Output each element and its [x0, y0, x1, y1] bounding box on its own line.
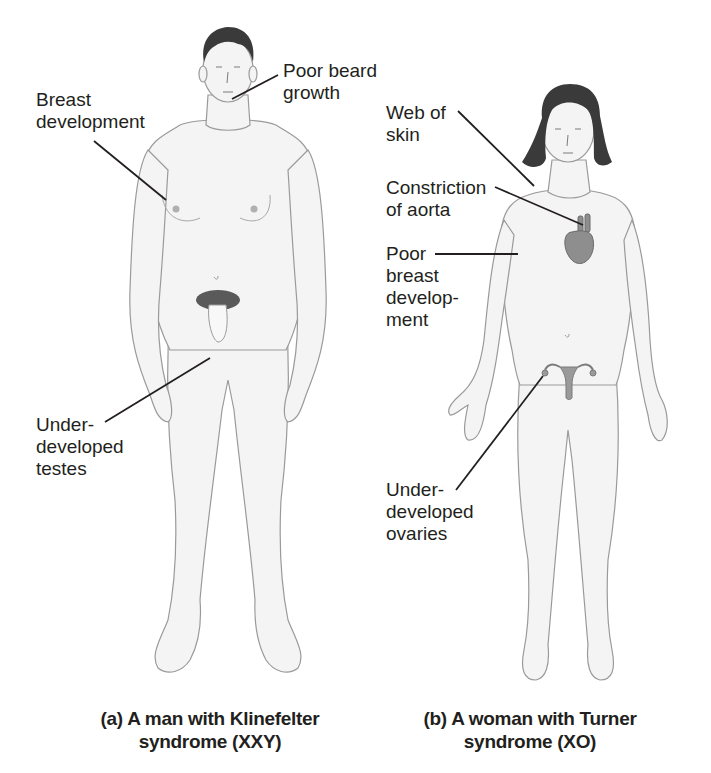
man-figure [130, 38, 326, 672]
man-nipple-left [173, 206, 180, 213]
leader-web [458, 111, 534, 186]
label-constriction-of-aorta: Constriction of aorta [386, 177, 486, 221]
label-web-of-skin: Web of skin [386, 102, 446, 146]
label-underdeveloped-ovaries: Under- developed ovaries [386, 479, 474, 545]
caption-figure-b: (b) A woman with Turner syndrome (XO) [385, 707, 675, 753]
caption-figure-a: (a) A man with Klinefelter syndrome (XXY… [70, 707, 350, 753]
label-poor-beard-growth: Poor beard growth [283, 60, 377, 104]
man-nipple-right [251, 206, 258, 213]
label-poor-breast-development: Poor breast develop- ment [386, 243, 459, 331]
label-breast-development: Breast development [36, 89, 145, 133]
label-underdeveloped-testes: Under- developed testes [36, 414, 124, 480]
